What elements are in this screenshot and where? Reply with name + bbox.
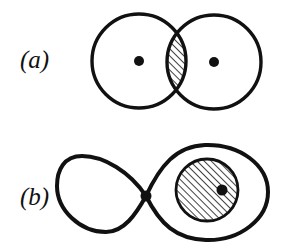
- figure-root: (a) (b): [0, 0, 286, 250]
- figure-svg: (a) (b): [0, 0, 286, 250]
- panel-a-label: (a): [20, 46, 49, 74]
- panel-b-group: (b): [20, 145, 268, 240]
- left-center-dot: [134, 56, 144, 66]
- lemniscate-left-lobe: [57, 156, 146, 232]
- panel-a-group: (a): [20, 0, 261, 125]
- right-center-dot: [209, 57, 219, 67]
- panel-b-label: (b): [20, 183, 49, 211]
- disc-interior-dot: [217, 185, 228, 196]
- crossing-node-dot: [141, 191, 152, 202]
